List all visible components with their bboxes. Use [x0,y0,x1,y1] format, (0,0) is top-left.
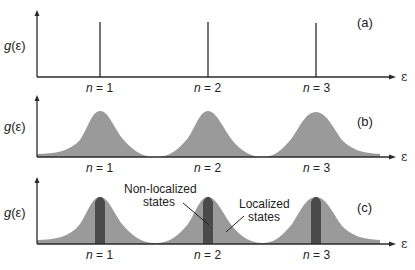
non-localized-core-n3 [311,197,321,244]
level-labels-a: n = 1 n = 2 n = 3 [86,81,330,95]
svg-text:n = 1: n = 1 [86,161,113,175]
panel-c [35,177,397,247]
panel-b [35,95,397,160]
y-axis-label-b: g(ε) [4,119,26,134]
svg-text:n = 2: n = 2 [194,81,221,95]
svg-text:n = 3: n = 3 [303,81,330,95]
panel-label-b: (b) [357,114,373,129]
panel-label-c: (c) [357,200,372,215]
y-axis-arrow-icon [35,95,40,101]
x-axis-arrow-icon [389,75,396,80]
svg-text:n = 2: n = 2 [194,248,221,262]
density-of-states-diagram: g(ε) g(ε) g(ε) ε ε ε (a) (b) (c) n = 1 n… [0,0,415,270]
panel-label-a: (a) [357,15,373,30]
non-localized-core-n2 [203,197,213,244]
annotation-non-localized-line1: Non-localized [124,182,197,196]
x-axis-label-c: ε [401,237,407,251]
x-axis-arrow-icon [389,155,396,160]
svg-text:n = 1: n = 1 [86,248,113,262]
y-axis-arrow-icon [35,177,40,183]
level-labels-c: n = 1 n = 2 n = 3 [86,248,330,262]
svg-text:n = 3: n = 3 [303,161,330,175]
x-axis-label-a: ε [401,70,407,84]
annotation-localized-line1: Localized [239,197,290,211]
svg-text:n = 3: n = 3 [303,248,330,262]
x-axis-arrow-icon [389,242,396,247]
x-axis-label-b: ε [401,150,407,164]
level-labels-b: n = 1 n = 2 n = 3 [86,161,330,175]
svg-text:n = 1: n = 1 [86,81,113,95]
annotation-non-localized-line2: states [143,195,175,209]
y-axis-label-c: g(ε) [4,205,26,220]
band-fill [37,111,380,157]
non-localized-core-n1 [95,197,105,244]
y-axis-arrow-icon [35,10,40,16]
annotation-localized-line2: states [248,210,280,224]
panel-a [35,10,397,80]
y-axis-label-a: g(ε) [4,38,26,53]
svg-text:n = 2: n = 2 [194,161,221,175]
